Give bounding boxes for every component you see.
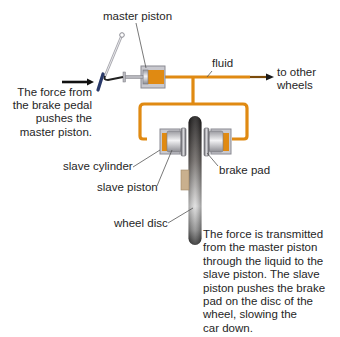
master-piston bbox=[143, 70, 148, 84]
label-wheel-disc: wheel disc bbox=[114, 217, 168, 230]
label-brake-pad: brake pad bbox=[219, 164, 270, 177]
brake-pedal bbox=[98, 33, 124, 90]
label-to-other-wheels: to other wheels bbox=[277, 66, 316, 92]
label-slave-piston: slave piston bbox=[97, 181, 158, 194]
to-wheels-arrow-icon bbox=[266, 74, 274, 81]
wheel-disc bbox=[189, 116, 202, 245]
hub-bracket bbox=[181, 170, 189, 190]
master-cylinder bbox=[123, 66, 165, 88]
label-slave-cylinder: slave cylinder bbox=[63, 160, 133, 173]
left-slave-cylinder bbox=[160, 128, 186, 156]
label-fluid: fluid bbox=[212, 57, 233, 70]
force-arrow-icon bbox=[62, 79, 94, 86]
right-slave-piston bbox=[209, 131, 223, 152]
explanation-text: The force is transmitted from the master… bbox=[203, 228, 325, 335]
left-brake-pad bbox=[181, 128, 186, 156]
brake-diagram: master piston fluid to other wheels The … bbox=[0, 0, 340, 337]
left-slave-piston bbox=[167, 131, 181, 152]
label-pedal-force: The force from the brake pedal pushes th… bbox=[13, 86, 92, 139]
right-brake-pad bbox=[204, 128, 209, 156]
right-slave-cylinder bbox=[204, 128, 231, 156]
label-master-piston: master piston bbox=[103, 10, 172, 23]
pedal-foot-plate bbox=[98, 74, 103, 90]
